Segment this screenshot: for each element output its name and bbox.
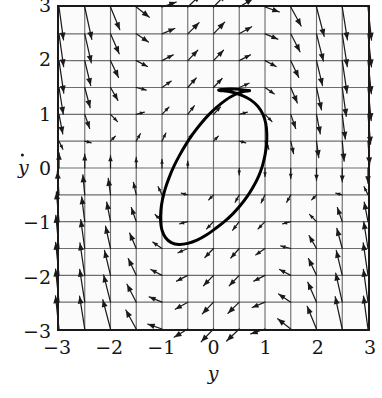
x-tick-label: 2 — [312, 338, 324, 357]
y-tick-label: −3 — [23, 322, 51, 341]
y-tick-label: 1 — [39, 104, 51, 123]
phase-portrait-figure: y y −3−2−101233210−1−2−3 — [0, 0, 382, 398]
y-axis-title: y — [18, 158, 29, 177]
y-tick-label: 2 — [39, 50, 51, 69]
y-tick-label: 0 — [39, 159, 51, 178]
x-tick-label: −2 — [95, 338, 123, 357]
y-axis-title-letter: y — [18, 156, 29, 178]
y-dot-overdot-icon — [21, 154, 24, 157]
x-axis-title: y — [208, 364, 219, 383]
x-tick-label: 0 — [207, 338, 219, 357]
limit-cycle-curve — [59, 7, 368, 329]
x-tick-label: −1 — [147, 338, 175, 357]
y-tick-label: −1 — [23, 213, 51, 232]
x-tick-label: 1 — [260, 338, 272, 357]
y-tick-label: 3 — [39, 0, 51, 15]
y-tick-label: −2 — [23, 267, 51, 286]
plot-area — [57, 5, 370, 331]
x-tick-label: 3 — [364, 338, 376, 357]
